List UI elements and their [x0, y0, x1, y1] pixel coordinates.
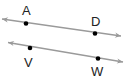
point-a	[24, 21, 29, 26]
label-v: V	[24, 55, 33, 70]
label-a: A	[22, 3, 31, 18]
parallel-lines-diagram: ADVW	[0, 0, 129, 82]
line-AD: AD	[2, 3, 121, 38]
label-d: D	[91, 14, 100, 29]
point-w	[96, 56, 101, 61]
label-w: W	[91, 64, 104, 79]
diagram-canvas: ADVW	[0, 0, 129, 82]
line-VW: VW	[8, 41, 123, 79]
point-v	[28, 46, 33, 51]
point-d	[93, 31, 98, 36]
